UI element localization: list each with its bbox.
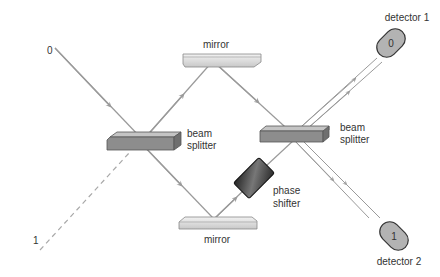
right-splitter-label-line2: splitter [340,134,370,145]
right-splitter-label-line1: beam [340,122,365,133]
phase-shifter-label-line1: phase [273,185,301,196]
top-mirror [183,54,261,67]
input-1-dashed-beam [40,152,130,250]
phase-shifter-label-line2: shifter [273,198,301,209]
bottom-mirror-label: mirror [204,234,231,245]
left-splitter-label-line1: beam [187,128,212,139]
input-port-1-label: 1 [33,235,39,246]
detector-2-value: 1 [391,231,397,242]
detector-1-value: 0 [388,38,394,49]
bottom-mirror [179,217,257,229]
right-beam-splitter [260,126,329,142]
left-splitter-label-line2: splitter [187,140,217,151]
left-beam-splitter [107,132,181,150]
interferometer-diagram: 0 1 mirror mirror beam splitter beam spl… [0,0,440,277]
top-mirror-label: mirror [203,39,230,50]
detector-1-label: detector 1 [385,12,430,23]
detector-2-label: detector 2 [377,256,422,267]
input-port-0-label: 0 [47,45,53,56]
